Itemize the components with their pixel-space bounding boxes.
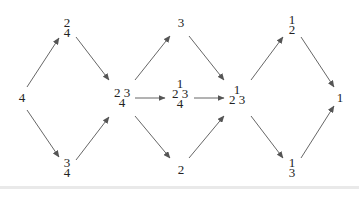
node-row: 1 xyxy=(337,93,344,103)
edge-arrow-n0-n2 xyxy=(27,110,59,157)
node-n2: 34 xyxy=(64,158,71,178)
node-n9: 13 xyxy=(289,158,296,178)
edge-arrow-n3-n4 xyxy=(135,36,170,80)
node-row: 4 xyxy=(19,93,26,103)
edge-arrow-n3-n6 xyxy=(135,116,170,158)
edge-arrow-n7-n9 xyxy=(251,116,283,158)
edge-arrow-n8-n10 xyxy=(301,37,334,87)
edge-arrow-n7-n8 xyxy=(251,37,283,80)
node-n4: 3 xyxy=(178,18,185,28)
node-n5: 12 34 xyxy=(172,79,188,109)
node-n3: 2 34 xyxy=(114,88,130,108)
node-n7: 12 3 xyxy=(229,85,245,105)
node-n0: 4 xyxy=(19,93,26,103)
edge-arrow-n4-n7 xyxy=(189,36,224,80)
edge-arrow-n0-n1 xyxy=(27,38,59,87)
node-row: 4 xyxy=(64,28,71,38)
node-row: 4 xyxy=(64,168,71,178)
node-row: 2 3 xyxy=(229,95,245,105)
node-row: 3 xyxy=(178,18,185,28)
node-row: 2 xyxy=(178,165,185,175)
node-row: 3 xyxy=(289,168,296,178)
node-n10: 1 xyxy=(337,93,344,103)
edge-arrow-n1-n3 xyxy=(76,37,109,80)
node-n8: 12 xyxy=(289,15,296,35)
node-n6: 2 xyxy=(178,165,185,175)
edge-arrow-n2-n3 xyxy=(76,117,109,160)
node-n1: 24 xyxy=(64,18,71,38)
edge-arrow-n9-n10 xyxy=(301,106,334,158)
edge-arrow-n6-n7 xyxy=(189,116,224,158)
node-row: 2 xyxy=(289,25,296,35)
bottom-divider xyxy=(0,186,359,189)
